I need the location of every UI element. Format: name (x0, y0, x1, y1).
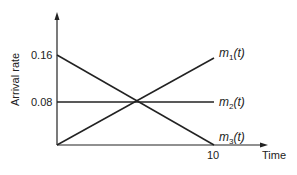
label-m2: m2(t) (219, 96, 245, 113)
x-axis-arrow-icon (260, 143, 268, 148)
ytick-0.16: 0.16 (31, 50, 52, 61)
y-axis-arrow-icon (55, 12, 60, 20)
ytick-0.08: 0.08 (31, 97, 52, 108)
x-axis-label: Time (262, 150, 286, 161)
label-m3: m3(t) (219, 131, 245, 148)
label-m1: m1(t) (219, 47, 245, 64)
chart: Arrival rate 0.16 0.08 10 Time m1(t) m2(… (0, 0, 297, 175)
plot-area (0, 0, 297, 175)
y-axis-label: Arrival rate (9, 53, 21, 106)
xtick-10: 10 (207, 150, 219, 161)
